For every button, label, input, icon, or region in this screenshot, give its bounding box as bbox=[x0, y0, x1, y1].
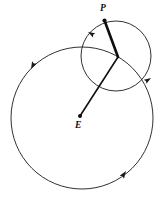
planet-label: P bbox=[100, 4, 106, 14]
deferent-circle bbox=[11, 47, 153, 189]
figure-container: P E bbox=[0, 0, 163, 198]
earth-point-dot bbox=[78, 114, 82, 118]
epicycle-right-arrow-icon bbox=[144, 76, 152, 84]
planet-point-dot bbox=[102, 18, 106, 22]
epicycle-diagram-svg bbox=[0, 0, 163, 198]
deferent-upper-left-arrow-icon bbox=[29, 61, 37, 70]
earth-to-epicycle-center-line bbox=[80, 57, 118, 116]
earth-label: E bbox=[75, 121, 82, 131]
